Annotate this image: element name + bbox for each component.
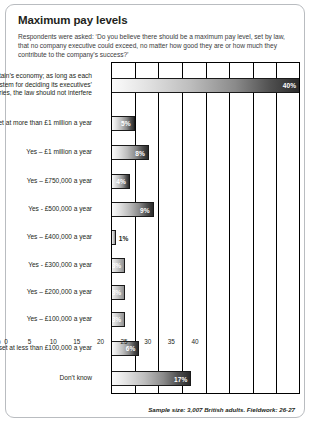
tick-mark <box>276 391 277 394</box>
tick-mark <box>182 62 183 65</box>
page-title: Maximum pay levels <box>18 14 127 26</box>
bar-value-label: 1% <box>119 234 129 241</box>
chart-card: Maximum pay levels Respondents were aske… <box>5 4 305 418</box>
bar-row: 17% <box>111 371 300 386</box>
category-label: Yes – £100,000 a year <box>0 315 92 324</box>
bar-value-label: 40% <box>283 82 296 89</box>
tick-mark <box>206 391 207 394</box>
bar-row: 3% <box>111 312 300 327</box>
axis-tick-label: 30 <box>144 338 151 345</box>
bar-value-label: 5% <box>121 120 131 127</box>
bar[interactable]: 40% <box>111 78 300 93</box>
bar-row: 40% <box>111 78 300 93</box>
tick-mark <box>182 391 183 394</box>
axis-tick-label: 10 <box>50 338 57 345</box>
category-label: Don’t know <box>0 374 92 383</box>
bar[interactable]: 5% <box>111 116 135 131</box>
category-label: Yes - £500,000 a year <box>0 205 92 214</box>
bar-value-label: 17% <box>174 375 187 382</box>
category-label: No - this would be bad for Britain’s eco… <box>0 72 92 98</box>
bar[interactable]: 8% <box>111 145 149 160</box>
bar-row: 3% <box>111 258 300 273</box>
category-label: Yes – £400,000 a year <box>0 233 92 242</box>
tick-mark <box>135 391 136 394</box>
bar-value-label: 4% <box>116 178 126 185</box>
x-axis: % 0510152025303540 <box>6 338 195 352</box>
axis-tick-label: 25 <box>121 338 128 345</box>
bar-row: 1% <box>111 230 300 245</box>
bar-row: 4% <box>111 174 300 189</box>
bar-row: 8% <box>111 145 300 160</box>
tick-mark <box>229 62 230 65</box>
axis-tick-label: 5 <box>28 338 32 345</box>
chart-subtitle: Respondents were asked: ‘Do you believe … <box>18 32 292 59</box>
bar[interactable]: 4% <box>111 174 130 189</box>
tick-mark <box>253 391 254 394</box>
bar[interactable]: 3% <box>111 285 125 300</box>
category-label: Yes – £750,000 a year <box>0 177 92 186</box>
bar-value-label: 8% <box>135 149 145 156</box>
category-label: Yes – £1 million a year <box>0 148 92 157</box>
tick-mark <box>111 62 112 65</box>
tick-mark <box>229 391 230 394</box>
tick-mark <box>276 62 277 65</box>
tick-mark <box>299 391 300 394</box>
bar[interactable]: 3% <box>111 312 125 327</box>
axis-tick-label: 0 <box>4 338 8 345</box>
bar-row: 5% <box>111 116 300 131</box>
bar-value-label: 3% <box>112 289 122 296</box>
axis-tick-label: 35 <box>168 338 175 345</box>
axis-tick-label: 15 <box>73 338 80 345</box>
axis-tick-label: 40 <box>191 338 198 345</box>
bar[interactable] <box>111 230 116 245</box>
chart-footer-note: Sample size: 3,007 British adults. Field… <box>148 406 295 413</box>
bar-value-label: 3% <box>112 262 122 269</box>
bar[interactable]: 9% <box>111 202 154 217</box>
bar-value-label: 3% <box>112 316 122 323</box>
bar[interactable]: 17% <box>111 371 191 386</box>
bar-value-label: 9% <box>140 206 150 213</box>
bar-row: 9% <box>111 202 300 217</box>
tick-mark <box>253 62 254 65</box>
bar[interactable]: 3% <box>111 258 125 273</box>
tick-mark <box>299 62 300 65</box>
tick-mark <box>135 62 136 65</box>
tick-mark <box>206 62 207 65</box>
tick-mark <box>158 391 159 394</box>
category-label: Yes - £300,000 a year <box>0 261 92 270</box>
tick-mark <box>111 391 112 394</box>
tick-mark <box>158 62 159 65</box>
bar-row: 3% <box>111 285 300 300</box>
axis-tick-label: 20 <box>97 338 104 345</box>
category-label: Yes - the limit should be set at more th… <box>0 119 92 128</box>
axis-unit-label: % <box>0 338 1 345</box>
category-label: Yes – £200,000 a year <box>0 288 92 297</box>
